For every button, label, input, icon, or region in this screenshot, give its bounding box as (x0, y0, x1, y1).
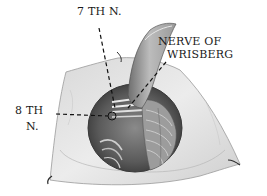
label-nerve-of-wrisberg-line2: WRISBERG (167, 49, 233, 60)
label-nerve-of-wrisberg-line1: NERVE OF (158, 36, 221, 47)
label-eighth-nerve-line2: N. (26, 121, 39, 132)
illustration-drawing (0, 0, 267, 196)
anatomical-figure: 7 TH N. NERVE OF WRISBERG 8 TH N. (0, 0, 267, 196)
label-seventh-nerve: 7 TH N. (77, 6, 122, 17)
label-eighth-nerve-line1: 8 TH (15, 105, 43, 116)
